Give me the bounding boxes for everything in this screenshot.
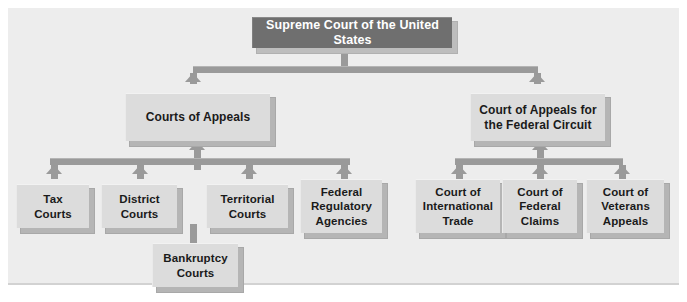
- connector-stem-supreme: [341, 53, 348, 67]
- node-federal-circuit-label: Court of Appeals for the Federal Circuit: [479, 103, 597, 132]
- node-bankruptcy-courts-label: Bankruptcy Courts: [163, 251, 227, 279]
- node-court-of-federal-claims-label: Court of Federal Claims: [517, 185, 563, 227]
- arrow-into-bus-from-court-of-international-trade: [451, 165, 467, 174]
- node-court-of-federal-claims[interactable]: Court of Federal Claims: [502, 179, 577, 233]
- node-court-of-international-trade-label: Court of International Trade: [423, 185, 493, 227]
- node-territorial-courts-label: Territorial Courts: [221, 192, 275, 220]
- arrow-into-courts-of-appeals-from-branch: [189, 141, 205, 150]
- node-federal-regulatory-agencies-label: Federal Regulatory Agencies: [311, 185, 372, 227]
- node-federal-circuit[interactable]: Court of Appeals for the Federal Circuit: [470, 93, 605, 141]
- arrow-into-courts-of-appeals: [185, 73, 201, 82]
- diagram-panel: [8, 8, 679, 285]
- node-bankruptcy-courts[interactable]: Bankruptcy Courts: [152, 243, 238, 287]
- node-district-courts[interactable]: District Courts: [101, 184, 177, 228]
- connector-bus-left-branch: [50, 158, 350, 165]
- court-hierarchy-diagram: Supreme Court of the United States Court…: [0, 0, 687, 302]
- node-court-of-veterans-appeals[interactable]: Court of Veterans Appeals: [586, 179, 664, 233]
- node-supreme-court-label: Supreme Court of the United States: [253, 18, 452, 49]
- connector-bus-right-branch: [455, 158, 623, 165]
- node-territorial-courts[interactable]: Territorial Courts: [206, 184, 288, 228]
- node-supreme-court[interactable]: Supreme Court of the United States: [252, 17, 452, 48]
- node-federal-regulatory-agencies[interactable]: Federal Regulatory Agencies: [300, 179, 382, 233]
- node-tax-courts[interactable]: Tax Courts: [16, 184, 89, 228]
- node-courts-of-appeals-label: Courts of Appeals: [146, 110, 251, 125]
- arrow-into-bus-from-court-of-veterans-appeals: [614, 165, 630, 174]
- arrow-into-federal-circuit-from-branch: [532, 141, 548, 150]
- arrow-into-bus-from-federal-regulatory-agencies: [336, 165, 352, 174]
- arrow-into-federal-circuit: [529, 73, 545, 82]
- arrow-into-bus-from-tax-courts: [46, 165, 62, 174]
- node-courts-of-appeals[interactable]: Courts of Appeals: [125, 93, 270, 141]
- connector-bus-appellate: [193, 66, 538, 73]
- node-court-of-international-trade[interactable]: Court of International Trade: [415, 179, 500, 233]
- node-district-courts-label: District Courts: [119, 192, 159, 220]
- arrow-into-bus-from-district-courts: [132, 165, 148, 174]
- arrow-into-bus-from-territorial-courts: [241, 165, 257, 174]
- node-tax-courts-label: Tax Courts: [34, 192, 72, 220]
- node-court-of-veterans-appeals-label: Court of Veterans Appeals: [601, 185, 650, 227]
- arrow-into-bus-from-court-of-federal-claims: [532, 165, 548, 174]
